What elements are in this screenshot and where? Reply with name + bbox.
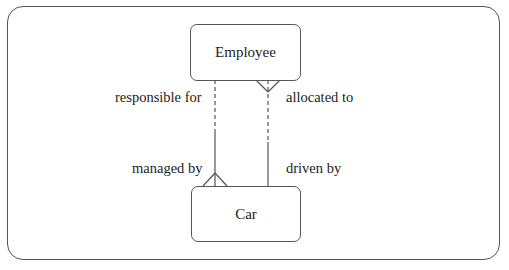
entity-employee[interactable]: Employee xyxy=(190,24,301,81)
entity-car-label: Car xyxy=(235,206,257,223)
label-responsible-for: responsible for xyxy=(115,89,202,106)
entity-employee-label: Employee xyxy=(215,44,276,61)
label-managed-by: managed by xyxy=(132,160,202,177)
entity-car[interactable]: Car xyxy=(191,186,301,242)
label-driven-by: driven by xyxy=(286,160,341,177)
label-allocated-to: allocated to xyxy=(286,89,353,106)
